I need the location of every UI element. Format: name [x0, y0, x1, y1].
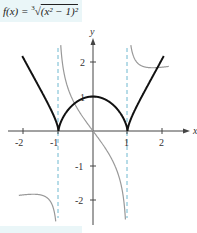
x-axis-label: x: [192, 125, 197, 136]
graph: x y -2 -1 1 2 2 1 -1 -2: [0, 0, 197, 233]
svg-text:-2: -2: [15, 137, 23, 148]
y-axis-arrow-icon: [91, 38, 96, 45]
y-axis-label: y: [89, 26, 95, 37]
x-axis-arrow-icon: [183, 129, 190, 134]
derivative-curve-left: [19, 194, 56, 221]
svg-text:-1: -1: [50, 137, 58, 148]
svg-text:2: 2: [159, 137, 164, 148]
svg-text:-2: -2: [75, 195, 83, 206]
svg-text:2: 2: [80, 57, 85, 68]
svg-text:1: 1: [124, 137, 129, 148]
curves: [19, 45, 169, 221]
svg-text:-1: -1: [75, 161, 83, 172]
